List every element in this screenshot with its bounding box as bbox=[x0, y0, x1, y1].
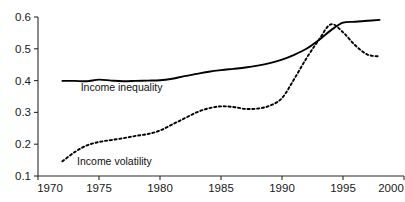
x-tick-label: 1975 bbox=[86, 182, 112, 194]
title-remnant-glyph: · bbox=[194, 0, 197, 8]
series-label-1: Income inequality bbox=[81, 81, 163, 93]
x-tick-label: 1995 bbox=[330, 182, 356, 194]
y-tick-label: 0.3 bbox=[15, 106, 31, 118]
x-tick-label: 1970 bbox=[37, 182, 63, 194]
line-chart: ·· 0.10.20.30.40.50.6 197019751980198519… bbox=[0, 0, 405, 202]
x-tick-label: 1980 bbox=[147, 182, 173, 194]
title-remnant-glyph: · bbox=[229, 0, 232, 8]
y-tick-label: 0.6 bbox=[15, 11, 31, 23]
x-tick-label: 1990 bbox=[269, 182, 295, 194]
x-tick-label: 2000 bbox=[378, 182, 404, 194]
series-label-2: Income volatility bbox=[77, 155, 152, 167]
cropped-title-remnant: ·· bbox=[194, 0, 232, 8]
y-axis-tick-labels: 0.10.20.30.40.50.6 bbox=[15, 11, 32, 182]
y-tick-label: 0.4 bbox=[15, 75, 32, 87]
y-tick-label: 0.1 bbox=[15, 170, 31, 182]
x-axis-tick-labels: 1970197519801985199019952000 bbox=[37, 182, 404, 194]
x-tick-label: 1985 bbox=[208, 182, 234, 194]
y-tick-label: 0.2 bbox=[15, 138, 31, 150]
y-tick-label: 0.5 bbox=[15, 43, 31, 55]
chart-figure: ·· 0.10.20.30.40.50.6 197019751980198519… bbox=[0, 0, 405, 202]
series-line-1 bbox=[62, 20, 379, 81]
series-inline-labels: Income inequalityIncome volatility bbox=[77, 81, 163, 167]
axis-lines bbox=[38, 17, 404, 176]
